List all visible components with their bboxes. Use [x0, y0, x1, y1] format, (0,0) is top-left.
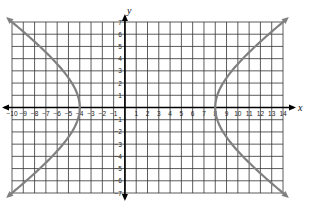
y-tick-label: −7 — [114, 190, 122, 197]
x-tick-label: 1 — [134, 110, 138, 117]
x-tick-label: 4 — [168, 110, 172, 117]
x-tick-label: 2 — [146, 110, 150, 117]
x-tick-label: −8 — [31, 110, 39, 117]
hyperbola-graph: −10−9−8−7−6−5−4−3−2−11234567891011121314… — [0, 0, 313, 208]
y-tick-label: 4 — [118, 55, 122, 62]
x-tick-label: −7 — [42, 110, 50, 117]
x-tick-label: 11 — [246, 110, 253, 117]
y-axis-arrow-down-icon — [122, 194, 128, 201]
x-axis-arrow-right-icon — [289, 105, 296, 111]
y-tick-label: 7 — [118, 19, 122, 26]
y-axis-label: y — [126, 5, 132, 16]
x-tick-label: 5 — [180, 110, 184, 117]
x-tick-label: −2 — [99, 110, 107, 117]
x-tick-label: −10 — [6, 110, 17, 117]
x-tick-label: 7 — [202, 110, 206, 117]
x-tick-label: 6 — [191, 110, 195, 117]
x-tick-label: 14 — [279, 110, 287, 117]
x-axis-label: x — [297, 102, 303, 113]
y-tick-label: 3 — [118, 67, 122, 74]
x-tick-label: −3 — [87, 110, 95, 117]
x-tick-label: 10 — [234, 110, 242, 117]
y-tick-label: −3 — [114, 141, 122, 148]
y-tick-label: −5 — [114, 165, 122, 172]
y-tick-label: 6 — [118, 31, 122, 38]
y-tick-label: −1 — [114, 116, 122, 123]
y-tick-label: 5 — [118, 43, 122, 50]
x-tick-label: 9 — [225, 110, 229, 117]
x-tick-label: 13 — [268, 110, 276, 117]
y-tick-label: 1 — [118, 92, 122, 99]
y-tick-label: 2 — [118, 80, 122, 87]
y-tick-label: −6 — [114, 177, 122, 184]
x-tick-label: −9 — [20, 110, 28, 117]
x-tick-label: −5 — [65, 110, 73, 117]
y-tick-label: −4 — [114, 153, 122, 160]
x-tick-label: −6 — [53, 110, 61, 117]
y-tick-label: −2 — [114, 128, 122, 135]
x-tick-label: 3 — [157, 110, 161, 117]
x-tick-label: 12 — [257, 110, 265, 117]
